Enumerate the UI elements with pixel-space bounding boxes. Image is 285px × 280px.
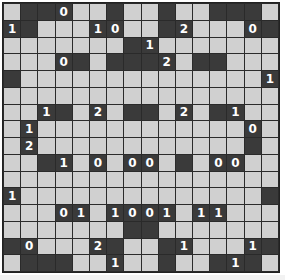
empty-cell[interactable] bbox=[176, 255, 192, 271]
empty-cell[interactable] bbox=[176, 4, 192, 20]
empty-cell[interactable] bbox=[107, 88, 123, 104]
empty-cell[interactable] bbox=[38, 71, 54, 87]
empty-cell[interactable] bbox=[90, 172, 106, 188]
empty-cell[interactable] bbox=[245, 222, 261, 238]
empty-cell[interactable] bbox=[4, 88, 20, 104]
empty-cell[interactable] bbox=[159, 138, 175, 154]
empty-cell[interactable] bbox=[262, 54, 278, 70]
empty-cell[interactable] bbox=[56, 239, 72, 255]
empty-cell[interactable] bbox=[21, 222, 37, 238]
empty-cell[interactable] bbox=[107, 222, 123, 238]
empty-cell[interactable] bbox=[73, 4, 89, 20]
empty-cell[interactable] bbox=[245, 172, 261, 188]
empty-cell[interactable] bbox=[142, 188, 158, 204]
empty-cell[interactable] bbox=[124, 239, 140, 255]
empty-cell[interactable] bbox=[38, 222, 54, 238]
empty-cell[interactable] bbox=[90, 205, 106, 221]
empty-cell[interactable] bbox=[38, 38, 54, 54]
empty-cell[interactable] bbox=[38, 205, 54, 221]
empty-cell[interactable] bbox=[56, 172, 72, 188]
empty-cell[interactable] bbox=[73, 155, 89, 171]
empty-cell[interactable] bbox=[227, 205, 243, 221]
empty-cell[interactable] bbox=[227, 71, 243, 87]
empty-cell[interactable] bbox=[4, 172, 20, 188]
empty-cell[interactable] bbox=[73, 172, 89, 188]
empty-cell[interactable] bbox=[4, 138, 20, 154]
empty-cell[interactable] bbox=[124, 121, 140, 137]
empty-cell[interactable] bbox=[90, 88, 106, 104]
empty-cell[interactable] bbox=[38, 88, 54, 104]
empty-cell[interactable] bbox=[193, 71, 209, 87]
empty-cell[interactable] bbox=[193, 21, 209, 37]
empty-cell[interactable] bbox=[210, 88, 226, 104]
empty-cell[interactable] bbox=[193, 172, 209, 188]
empty-cell[interactable] bbox=[193, 239, 209, 255]
empty-cell[interactable] bbox=[262, 172, 278, 188]
empty-cell[interactable] bbox=[245, 38, 261, 54]
empty-cell[interactable] bbox=[56, 138, 72, 154]
empty-cell[interactable] bbox=[227, 172, 243, 188]
empty-cell[interactable] bbox=[210, 188, 226, 204]
empty-cell[interactable] bbox=[176, 38, 192, 54]
empty-cell[interactable] bbox=[21, 155, 37, 171]
empty-cell[interactable] bbox=[210, 71, 226, 87]
empty-cell[interactable] bbox=[4, 222, 20, 238]
empty-cell[interactable] bbox=[142, 71, 158, 87]
empty-cell[interactable] bbox=[21, 38, 37, 54]
empty-cell[interactable] bbox=[38, 121, 54, 137]
empty-cell[interactable] bbox=[21, 172, 37, 188]
empty-cell[interactable] bbox=[245, 155, 261, 171]
empty-cell[interactable] bbox=[107, 71, 123, 87]
empty-cell[interactable] bbox=[107, 155, 123, 171]
empty-cell[interactable] bbox=[38, 54, 54, 70]
empty-cell[interactable] bbox=[21, 54, 37, 70]
empty-cell[interactable] bbox=[124, 88, 140, 104]
empty-cell[interactable] bbox=[159, 71, 175, 87]
empty-cell[interactable] bbox=[227, 54, 243, 70]
empty-cell[interactable] bbox=[176, 172, 192, 188]
empty-cell[interactable] bbox=[176, 222, 192, 238]
empty-cell[interactable] bbox=[4, 255, 20, 271]
empty-cell[interactable] bbox=[193, 4, 209, 20]
empty-cell[interactable] bbox=[4, 205, 20, 221]
empty-cell[interactable] bbox=[193, 222, 209, 238]
empty-cell[interactable] bbox=[159, 105, 175, 121]
empty-cell[interactable] bbox=[73, 255, 89, 271]
empty-cell[interactable] bbox=[262, 255, 278, 271]
empty-cell[interactable] bbox=[90, 138, 106, 154]
empty-cell[interactable] bbox=[124, 172, 140, 188]
empty-cell[interactable] bbox=[142, 4, 158, 20]
empty-cell[interactable] bbox=[73, 138, 89, 154]
empty-cell[interactable] bbox=[210, 21, 226, 37]
empty-cell[interactable] bbox=[245, 54, 261, 70]
empty-cell[interactable] bbox=[193, 155, 209, 171]
empty-cell[interactable] bbox=[176, 188, 192, 204]
empty-cell[interactable] bbox=[90, 38, 106, 54]
empty-cell[interactable] bbox=[21, 205, 37, 221]
empty-cell[interactable] bbox=[56, 71, 72, 87]
empty-cell[interactable] bbox=[142, 138, 158, 154]
empty-cell[interactable] bbox=[107, 138, 123, 154]
empty-cell[interactable] bbox=[227, 38, 243, 54]
empty-cell[interactable] bbox=[262, 205, 278, 221]
empty-cell[interactable] bbox=[90, 71, 106, 87]
empty-cell[interactable] bbox=[21, 88, 37, 104]
empty-cell[interactable] bbox=[107, 121, 123, 137]
empty-cell[interactable] bbox=[142, 239, 158, 255]
empty-cell[interactable] bbox=[56, 121, 72, 137]
empty-cell[interactable] bbox=[159, 38, 175, 54]
empty-cell[interactable] bbox=[38, 21, 54, 37]
empty-cell[interactable] bbox=[193, 255, 209, 271]
empty-cell[interactable] bbox=[193, 38, 209, 54]
empty-cell[interactable] bbox=[73, 38, 89, 54]
empty-cell[interactable] bbox=[262, 138, 278, 154]
empty-cell[interactable] bbox=[90, 121, 106, 137]
empty-cell[interactable] bbox=[193, 138, 209, 154]
empty-cell[interactable] bbox=[227, 138, 243, 154]
empty-cell[interactable] bbox=[193, 88, 209, 104]
empty-cell[interactable] bbox=[56, 188, 72, 204]
empty-cell[interactable] bbox=[193, 105, 209, 121]
empty-cell[interactable] bbox=[107, 172, 123, 188]
empty-cell[interactable] bbox=[262, 155, 278, 171]
empty-cell[interactable] bbox=[210, 222, 226, 238]
